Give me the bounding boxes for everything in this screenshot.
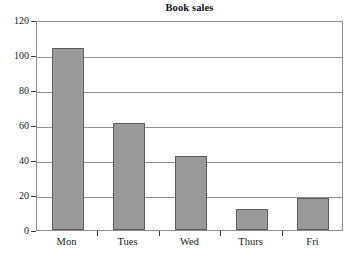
bar-fri xyxy=(297,198,329,230)
y-axis-label: 60 xyxy=(19,121,29,131)
chart-title: Book sales xyxy=(36,2,343,13)
bar-chart: Book sales 020406080100120 MonTuesWedThu… xyxy=(0,0,355,259)
plot-area xyxy=(36,21,343,231)
y-axis-label: 0 xyxy=(24,226,29,236)
bar-mon xyxy=(52,48,84,230)
x-axis-tick xyxy=(282,231,283,236)
bar-tues xyxy=(113,123,145,230)
y-axis-label: 80 xyxy=(19,86,29,96)
y-axis-label: 120 xyxy=(14,16,29,26)
x-axis-label-mon: Mon xyxy=(36,237,97,248)
x-axis-tick xyxy=(97,231,98,236)
x-axis-tick xyxy=(159,231,160,236)
x-axis-label-wed: Wed xyxy=(159,237,220,248)
x-axis-label-tues: Tues xyxy=(97,237,158,248)
y-axis-label: 20 xyxy=(19,191,29,201)
x-axis-label-thurs: Thurs xyxy=(220,237,281,248)
y-axis-label: 100 xyxy=(14,51,29,61)
x-axis-tick xyxy=(220,231,221,236)
y-axis-label: 40 xyxy=(19,156,29,166)
bar-wed xyxy=(175,156,207,230)
bar-thurs xyxy=(236,209,268,230)
x-axis-label-fri: Fri xyxy=(282,237,343,248)
y-axis-tick xyxy=(31,231,36,232)
